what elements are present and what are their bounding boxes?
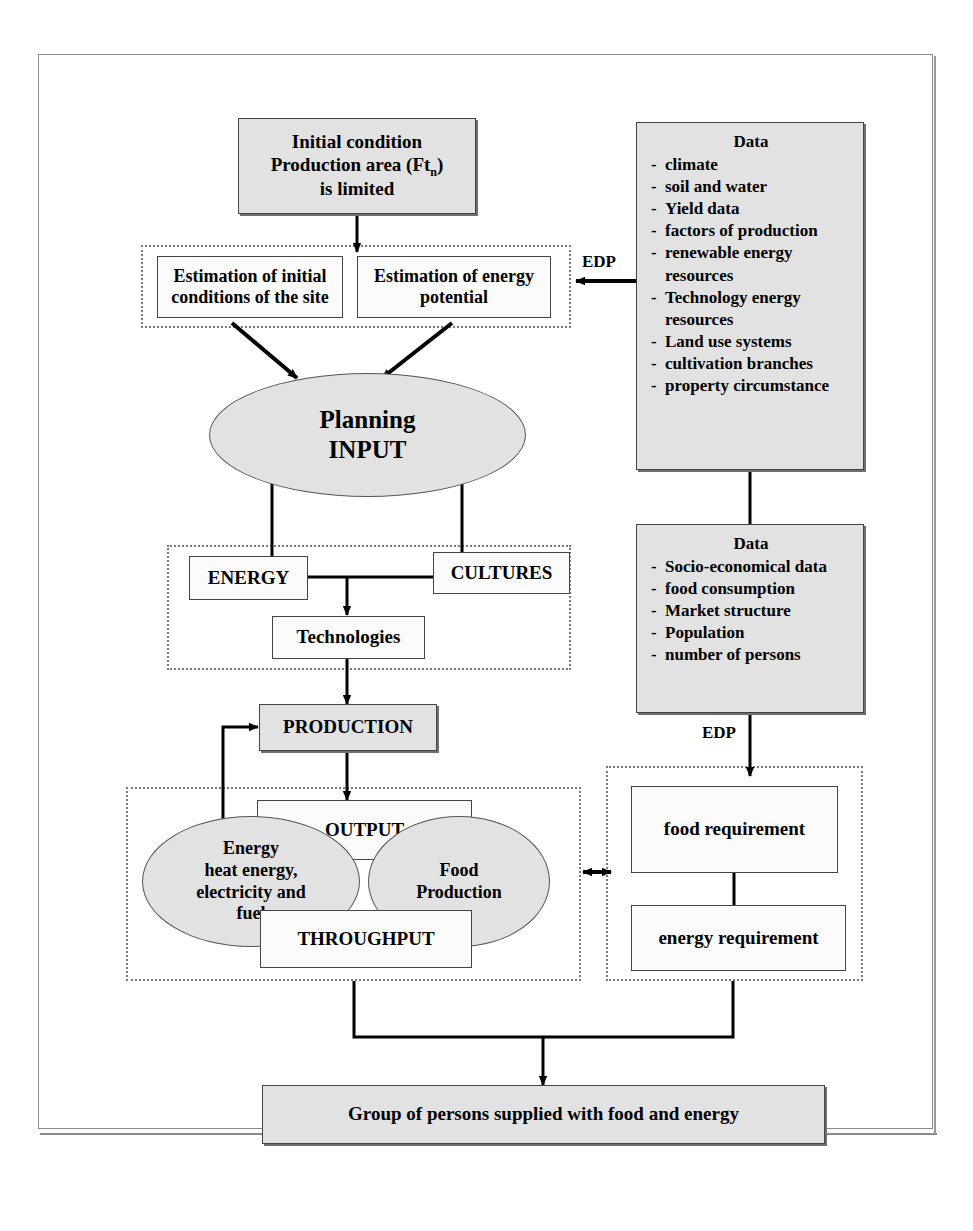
node-estimation-energy-potential[interactable]: Estimation of energy potential [357, 256, 551, 318]
node-group-supplied[interactable]: Group of persons supplied with food and … [262, 1085, 825, 1144]
initial-condition-line1: Initial condition [292, 131, 422, 153]
node-energy[interactable]: ENERGY [189, 556, 308, 600]
label-edp-bottom: EDP [702, 723, 736, 743]
data-box-bottom-list: Socio-economical data food consumption M… [649, 556, 853, 666]
energy-ellipse-line1: Energy [223, 838, 279, 860]
initial-condition-line3: is limited [320, 178, 394, 200]
node-technologies[interactable]: Technologies [272, 616, 425, 659]
node-estimation-initial-conditions[interactable]: Estimation of initial conditions of the … [157, 256, 343, 318]
estimation-energy-line1: Estimation of energy [374, 266, 534, 287]
estimation-initial-line2: conditions of the site [171, 287, 329, 308]
list-item: climate [649, 154, 853, 176]
node-initial-condition[interactable]: Initial condition Production area (Ftn) … [238, 118, 476, 214]
list-item: Socio-economical data [649, 556, 853, 578]
list-item: number of persons [649, 644, 853, 666]
data-box-top[interactable]: Data climate soil and water Yield data f… [636, 122, 864, 470]
energy-ellipse-line3: electricity and [196, 882, 305, 904]
node-planning-input[interactable]: Planning INPUT [209, 373, 526, 497]
node-production[interactable]: PRODUCTION [259, 704, 437, 751]
node-throughput[interactable]: THROUGHPUT [260, 910, 472, 968]
initial-condition-line2: Production area (Ftn) [271, 154, 444, 179]
list-item: soil and water [649, 176, 853, 198]
estimation-initial-line1: Estimation of initial [173, 266, 326, 287]
food-ellipse-line1: Food [439, 860, 478, 882]
data-box-top-list: climate soil and water Yield data factor… [649, 154, 853, 397]
node-cultures[interactable]: CULTURES [433, 552, 570, 594]
planning-input-line1: Planning [320, 405, 416, 435]
diagram-canvas: Initial condition Production area (Ftn) … [0, 0, 973, 1231]
page-frame-right-rule [934, 56, 936, 1134]
data-box-top-title: Data [649, 131, 853, 153]
planning-input-line2: INPUT [329, 435, 407, 465]
data-box-bottom-title: Data [649, 533, 853, 555]
list-item: renewable energy resources [649, 242, 853, 286]
list-item: food consumption [649, 578, 853, 600]
energy-ellipse-line2: heat energy, [205, 860, 298, 882]
food-ellipse-line2: Production [416, 882, 502, 904]
node-energy-requirement[interactable]: energy requirement [631, 905, 846, 971]
node-food-requirement[interactable]: food requirement [631, 786, 838, 873]
list-item: Market structure [649, 600, 853, 622]
list-item: Population [649, 622, 853, 644]
list-item: factors of production [649, 220, 853, 242]
label-edp-top: EDP [582, 252, 616, 272]
estimation-energy-line2: potential [420, 287, 488, 308]
list-item: Land use systems [649, 331, 853, 353]
list-item: property circumstance [649, 375, 853, 397]
list-item: cultivation branches [649, 353, 853, 375]
list-item: Yield data [649, 198, 853, 220]
list-item: Technology energy resources [649, 287, 853, 331]
data-box-bottom[interactable]: Data Socio-economical data food consumpt… [636, 524, 864, 713]
